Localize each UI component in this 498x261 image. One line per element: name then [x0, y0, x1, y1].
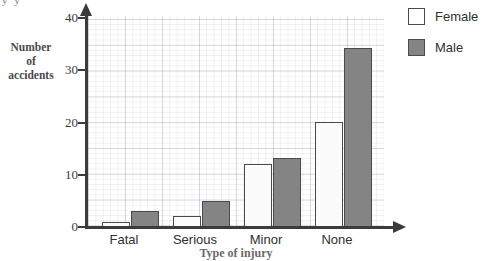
x-label-minor: Minor [230, 232, 302, 247]
x-label-serious: Serious [159, 232, 231, 247]
y-tick-label-30: 30 [50, 62, 78, 78]
x-axis-title: Type of injury [88, 246, 384, 261]
plot-area [88, 16, 384, 227]
y-axis-title-line-1: Number [0, 40, 62, 54]
y-tick-label-20: 20 [50, 115, 78, 131]
x-axis-arrow-icon [393, 221, 406, 233]
legend-swatch-female-icon [408, 8, 425, 25]
bar-minor-female [244, 164, 272, 227]
y-tick-20: 20 [44, 115, 78, 129]
y-tick-0: 0 [44, 219, 78, 233]
y-tick-label-0: 0 [50, 219, 78, 235]
legend-item-male: Male [408, 39, 496, 56]
bar-serious-male [202, 201, 230, 227]
y-axis-line [85, 14, 88, 229]
clipped-text-artifact: y y [2, 0, 22, 6]
x-axis-line [85, 226, 395, 229]
y-tick-30: 30 [44, 62, 78, 76]
bar-minor-male [273, 158, 301, 227]
legend-swatch-male-icon [408, 39, 425, 56]
y-tick-label-40: 40 [50, 10, 78, 26]
y-axis-arrow-icon [80, 3, 92, 16]
bar-none-male [344, 48, 372, 227]
legend-label-male: Male [435, 40, 463, 55]
chart-legend: Female Male [408, 8, 496, 70]
y-tick-10: 10 [44, 167, 78, 181]
bar-none-female [315, 122, 343, 228]
legend-item-female: Female [408, 8, 496, 25]
legend-label-female: Female [435, 9, 478, 24]
x-label-none: None [301, 232, 373, 247]
bar-fatal-male [131, 211, 159, 227]
y-tick-40: 40 [44, 10, 78, 24]
y-tick-label-10: 10 [50, 167, 78, 183]
x-label-fatal: Fatal [88, 232, 160, 247]
